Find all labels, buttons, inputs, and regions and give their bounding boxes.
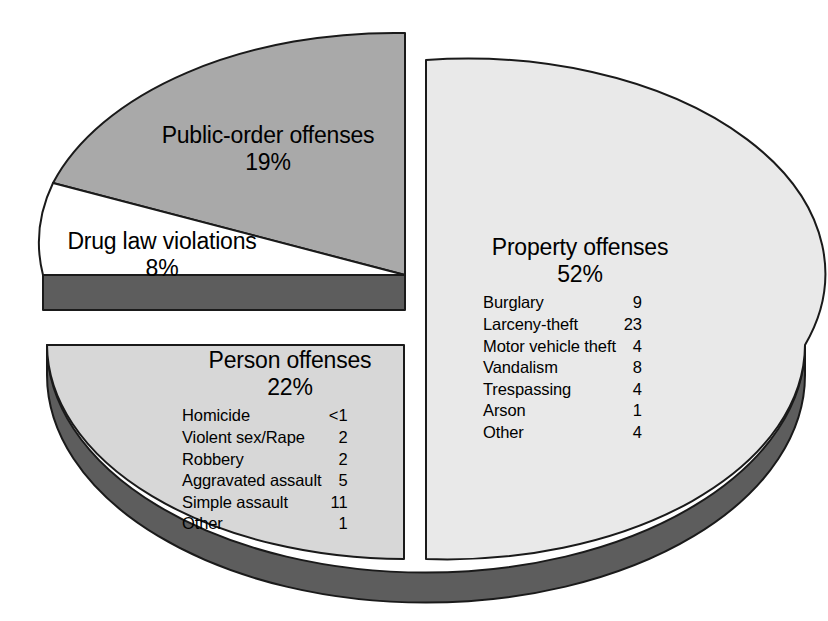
breakdown-label: Motor vehicle theft — [483, 337, 616, 359]
breakdown-value: 11 — [321, 493, 347, 515]
label-property-offenses: Property offenses 52% Burglary9Larceny-t… — [455, 234, 705, 445]
breakdown-row: Other4 — [483, 423, 642, 445]
breakdown-label: Arson — [483, 401, 616, 423]
breakdown-label: Homicide — [182, 406, 321, 428]
drug-law-title: Drug law violations — [22, 228, 302, 255]
breakdown-value: 2 — [321, 428, 347, 450]
breakdown-value: 1 — [321, 514, 347, 536]
property-percent: 52% — [455, 261, 705, 288]
breakdown-label: Violent sex/Rape — [182, 428, 321, 450]
breakdown-value: 4 — [616, 337, 642, 359]
public-order-title: Public-order offenses — [118, 122, 418, 149]
public-order-percent: 19% — [118, 149, 418, 176]
breakdown-row: Simple assault11 — [182, 493, 347, 515]
label-person-offenses: Person offenses 22% Homicide<1Violent se… — [160, 347, 420, 536]
person-percent: 22% — [160, 374, 420, 401]
breakdown-row: Other1 — [182, 514, 347, 536]
breakdown-value: 4 — [616, 423, 642, 445]
breakdown-label: Vandalism — [483, 358, 616, 380]
breakdown-value: 2 — [321, 450, 347, 472]
breakdown-label: Other — [483, 423, 616, 445]
breakdown-label: Other — [182, 514, 321, 536]
breakdown-value: 4 — [616, 380, 642, 402]
breakdown-label: Simple assault — [182, 493, 321, 515]
breakdown-row: Violent sex/Rape2 — [182, 428, 347, 450]
breakdown-row: Arson1 — [483, 401, 642, 423]
property-breakdown-table: Burglary9Larceny-theft23Motor vehicle th… — [483, 293, 642, 444]
pie-chart: Public-order offenses 19% Drug law viola… — [0, 0, 828, 621]
breakdown-label: Trespassing — [483, 380, 616, 402]
breakdown-label: Burglary — [483, 293, 616, 315]
breakdown-row: Robbery2 — [182, 450, 347, 472]
breakdown-row: Burglary9 — [483, 293, 642, 315]
person-breakdown-body: Homicide<1Violent sex/Rape2Robbery2Aggra… — [182, 406, 347, 536]
breakdown-value: 9 — [616, 293, 642, 315]
property-title: Property offenses — [455, 234, 705, 261]
breakdown-value: 5 — [321, 471, 347, 493]
label-public-order-offenses: Public-order offenses 19% — [118, 122, 418, 175]
breakdown-value: <1 — [321, 406, 347, 428]
breakdown-row: Aggravated assault5 — [182, 471, 347, 493]
property-breakdown-body: Burglary9Larceny-theft23Motor vehicle th… — [483, 293, 642, 444]
label-drug-law-violations: Drug law violations 8% — [22, 228, 302, 281]
property-breakdown-wrap: Burglary9Larceny-theft23Motor vehicle th… — [455, 287, 705, 444]
person-breakdown-table: Homicide<1Violent sex/Rape2Robbery2Aggra… — [182, 406, 347, 536]
person-breakdown-wrap: Homicide<1Violent sex/Rape2Robbery2Aggra… — [160, 400, 420, 536]
breakdown-row: Vandalism8 — [483, 358, 642, 380]
breakdown-value: 23 — [616, 315, 642, 337]
breakdown-label: Aggravated assault — [182, 471, 321, 493]
breakdown-value: 8 — [616, 358, 642, 380]
breakdown-row: Homicide<1 — [182, 406, 347, 428]
person-title: Person offenses — [160, 347, 420, 374]
breakdown-row: Motor vehicle theft4 — [483, 337, 642, 359]
breakdown-row: Trespassing4 — [483, 380, 642, 402]
breakdown-value: 1 — [616, 401, 642, 423]
breakdown-row: Larceny-theft23 — [483, 315, 642, 337]
drug-law-percent: 8% — [22, 255, 302, 282]
breakdown-label: Larceny-theft — [483, 315, 616, 337]
breakdown-label: Robbery — [182, 450, 321, 472]
